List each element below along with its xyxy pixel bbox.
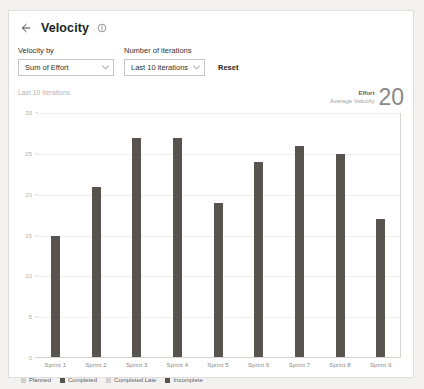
chart-legend: PlannedCompletedCompleted LateIncomplete	[9, 377, 413, 383]
legend-swatch-icon	[60, 378, 65, 383]
chevron-down-icon	[102, 65, 109, 71]
legend-swatch-icon	[165, 378, 170, 383]
range-caption: Last 10 iterations	[18, 89, 70, 96]
legend-label: Incomplete	[173, 377, 202, 383]
x-axis-tick-label: Sprint 4	[157, 362, 198, 368]
card-header: Velocity	[9, 11, 413, 35]
y-axis-tick-label: 25	[18, 150, 32, 157]
x-axis-tick-label: Sprint 1	[35, 362, 76, 368]
bar-slot	[116, 113, 157, 358]
iterations-value: Last 10 iterations	[131, 63, 188, 72]
legend-label: Completed	[68, 377, 97, 383]
chart-bar[interactable]	[132, 138, 141, 359]
iterations-group: Number of iterations Last 10 iterations	[124, 46, 205, 76]
x-axis-tick-label: Sprint 9	[360, 362, 401, 368]
chart-bar[interactable]	[254, 162, 263, 358]
controls-row: Velocity by Sum of Effort Number of iter…	[9, 46, 413, 76]
velocity-bar-chart: 051015202530	[18, 113, 404, 358]
info-circle-icon[interactable]	[96, 22, 107, 33]
x-axis-tick-label: Sprint 5	[198, 362, 239, 368]
legend-label: Planned	[29, 377, 51, 383]
bar-slot	[360, 113, 401, 358]
chart-bar[interactable]	[173, 138, 182, 359]
chart-bar[interactable]	[336, 154, 345, 358]
chart-bar[interactable]	[51, 236, 60, 359]
x-axis-line	[35, 357, 401, 358]
summary-metric-label: Effort	[330, 89, 375, 97]
chart-bar[interactable]	[214, 203, 223, 358]
iterations-label: Number of iterations	[124, 46, 205, 55]
x-axis-tick-label: Sprint 8	[320, 362, 361, 368]
summary-labels: Effort Average Velocity	[330, 87, 375, 105]
average-velocity-value: 20	[378, 87, 404, 108]
iterations-select[interactable]: Last 10 iterations	[124, 59, 205, 76]
chart-bar[interactable]	[92, 187, 101, 359]
bar-slot	[198, 113, 239, 358]
velocity-card: Velocity Velocity by Sum of Effort	[8, 10, 414, 378]
bar-slot	[35, 113, 76, 358]
legend-item[interactable]: Completed Late	[106, 377, 156, 383]
x-axis-labels: Sprint 1Sprint 2Sprint 3Sprint 4Sprint 5…	[18, 362, 404, 368]
y-axis-tick-label: 15	[18, 232, 32, 239]
y-axis-tick-label: 0	[18, 355, 32, 362]
page-title: Velocity	[41, 20, 89, 36]
legend-label: Completed Late	[114, 377, 156, 383]
bar-slot	[279, 113, 320, 358]
bar-slot	[320, 113, 361, 358]
bar-slot	[157, 113, 198, 358]
y-axis-tick-label: 20	[18, 191, 32, 198]
summary-sublabel: Average Velocity	[330, 97, 375, 105]
legend-item[interactable]: Completed	[60, 377, 97, 383]
bar-slot	[76, 113, 117, 358]
velocity-by-select[interactable]: Sum of Effort	[18, 59, 114, 76]
bar-slot	[238, 113, 279, 358]
chart-bar[interactable]	[376, 219, 385, 358]
x-axis-tick-label: Sprint 2	[76, 362, 117, 368]
legend-swatch-icon	[106, 378, 111, 383]
y-axis-tick-label: 30	[18, 110, 32, 117]
right-axis-line	[400, 113, 401, 358]
legend-swatch-icon	[21, 378, 26, 383]
legend-item[interactable]: Incomplete	[165, 377, 202, 383]
y-axis-tick-label: 10	[18, 273, 32, 280]
chart-bars	[35, 113, 401, 358]
reset-button[interactable]: Reset	[218, 63, 238, 72]
x-axis-tick-label: Sprint 3	[116, 362, 157, 368]
chevron-down-icon	[193, 65, 200, 71]
chart-meta-row: Last 10 iterations Effort Average Veloci…	[9, 87, 413, 113]
legend-item[interactable]: Planned	[21, 377, 51, 383]
arrow-left-icon[interactable]	[18, 20, 34, 36]
average-velocity-summary: Effort Average Velocity 20	[330, 87, 404, 108]
y-axis-tick-label: 5	[18, 314, 32, 321]
velocity-by-group: Velocity by Sum of Effort	[18, 46, 114, 76]
x-axis-tick-label: Sprint 7	[279, 362, 320, 368]
x-axis-tick-label: Sprint 6	[238, 362, 279, 368]
velocity-by-value: Sum of Effort	[25, 63, 69, 72]
velocity-by-label: Velocity by	[18, 46, 114, 55]
chart-bar[interactable]	[295, 146, 304, 358]
